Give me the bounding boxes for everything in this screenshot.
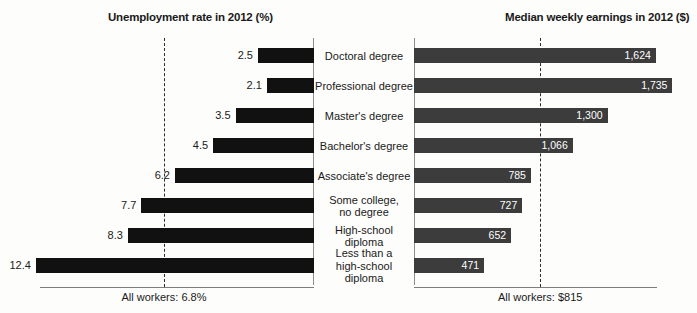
category-labels-column: Doctoral degreeProfessional degreeMaster…	[314, 38, 414, 285]
unemployment-row: 12.4	[0, 251, 314, 281]
earnings-row: 1,735	[414, 71, 697, 101]
unemployment-value-label: 7.7	[121, 198, 136, 213]
right-footer-label: All workers: $815	[498, 291, 582, 303]
earnings-row: 785	[414, 161, 697, 191]
unemployment-row: 2.1	[0, 71, 314, 101]
unemployment-row: 4.5	[0, 131, 314, 161]
category-label: Some college,no degree	[314, 194, 414, 219]
earnings-row: 1,624	[414, 41, 697, 71]
unemployment-row: 3.5	[0, 101, 314, 131]
unemployment-bar	[258, 48, 314, 63]
unemployment-value-label: 3.5	[215, 108, 230, 123]
unemployment-value-label: 12.4	[9, 258, 30, 273]
category-label: Professional degree	[314, 80, 414, 93]
category-label: Associate's degree	[314, 170, 414, 183]
category-label-line: Professional degree	[314, 80, 414, 93]
left-panel-header: Unemployment rate in 2012 (%)	[108, 11, 273, 23]
unemployment-value-label: 6.2	[155, 168, 170, 183]
earnings-value-label: 1,066	[414, 138, 568, 153]
category-label-line: High-school	[314, 224, 414, 237]
category-label-line: Associate's degree	[314, 170, 414, 183]
median-earnings-plot: 1,6241,7351,3001,066785727652471	[414, 38, 697, 285]
category-label: Master's degree	[314, 110, 414, 123]
unemployment-rate-plot: 2.52.13.54.56.27.78.312.4	[0, 38, 314, 285]
earnings-row: 652	[414, 221, 697, 251]
earnings-value-label: 1,735	[414, 78, 667, 93]
left-footer-rule	[40, 287, 314, 288]
unemployment-value-label: 4.5	[193, 138, 208, 153]
earnings-value-label: 471	[414, 258, 479, 273]
unemployment-row: 8.3	[0, 221, 314, 251]
unemployment-bar	[128, 228, 314, 243]
category-label-line: Less than a	[314, 247, 414, 260]
earnings-value-label: 727	[414, 198, 517, 213]
unemployment-bar	[141, 198, 314, 213]
education-earnings-unemployment-chart: Unemployment rate in 2012 (%) Median wee…	[0, 0, 697, 313]
left-footer-label: All workers: 6.8%	[122, 291, 207, 303]
earnings-row: 471	[414, 251, 697, 281]
unemployment-row: 2.5	[0, 41, 314, 71]
unemployment-bar	[213, 138, 314, 153]
category-label-line: Some college,	[314, 194, 414, 207]
category-label-line: Master's degree	[314, 110, 414, 123]
category-label-line: Doctoral degree	[314, 50, 414, 63]
category-label-line: diploma	[314, 272, 414, 285]
earnings-value-label: 1,300	[414, 108, 603, 123]
category-label: Less than ahigh-schooldiploma	[314, 247, 414, 285]
unemployment-bar	[236, 108, 315, 123]
unemployment-value-label: 2.1	[247, 78, 262, 93]
unemployment-row: 7.7	[0, 191, 314, 221]
earnings-row: 1,300	[414, 101, 697, 131]
unemployment-bar	[267, 78, 314, 93]
earnings-value-label: 652	[414, 228, 506, 243]
unemployment-value-label: 2.5	[238, 48, 253, 63]
category-label: Doctoral degree	[314, 50, 414, 63]
earnings-value-label: 785	[414, 168, 526, 183]
unemployment-bar	[36, 258, 314, 273]
earnings-value-label: 1,624	[414, 48, 651, 63]
category-label: High-schooldiploma	[314, 224, 414, 249]
earnings-row: 727	[414, 191, 697, 221]
unemployment-bar	[175, 168, 314, 183]
right-footer-rule	[414, 287, 657, 288]
unemployment-row: 6.2	[0, 161, 314, 191]
category-label-line: Bachelor's degree	[314, 140, 414, 153]
unemployment-value-label: 8.3	[108, 228, 123, 243]
category-label-line: high-school	[314, 260, 414, 273]
right-panel-header: Median weekly earnings in 2012 ($)	[505, 11, 689, 23]
category-label: Bachelor's degree	[314, 140, 414, 153]
earnings-row: 1,066	[414, 131, 697, 161]
category-label-line: no degree	[314, 206, 414, 219]
